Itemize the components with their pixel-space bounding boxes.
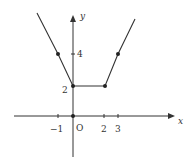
point-origin [71,114,75,118]
x-axis-label: x [178,116,183,126]
x-tick-label-neg1: −1 [50,124,63,134]
point-3-4 [116,52,120,56]
function-line [37,13,135,86]
x-tick-label-3: 3 [115,124,121,134]
x-tick-label-2: 2 [101,124,107,134]
y-tick-label-2: 2 [62,85,68,95]
x-axis-arrow-icon [168,113,175,119]
point-neg1-4 [56,52,60,56]
point-2-2 [103,84,107,88]
y-tick-label-4: 4 [77,49,83,59]
y-axis-label: y [79,11,86,21]
point-0-2 [71,84,75,88]
graph-canvas: y x O −1 2 3 2 4 [0,0,193,168]
origin-label: O [76,123,83,133]
y-axis-arrow-icon [70,15,76,22]
function-graph: y x O −1 2 3 2 4 [0,0,193,168]
